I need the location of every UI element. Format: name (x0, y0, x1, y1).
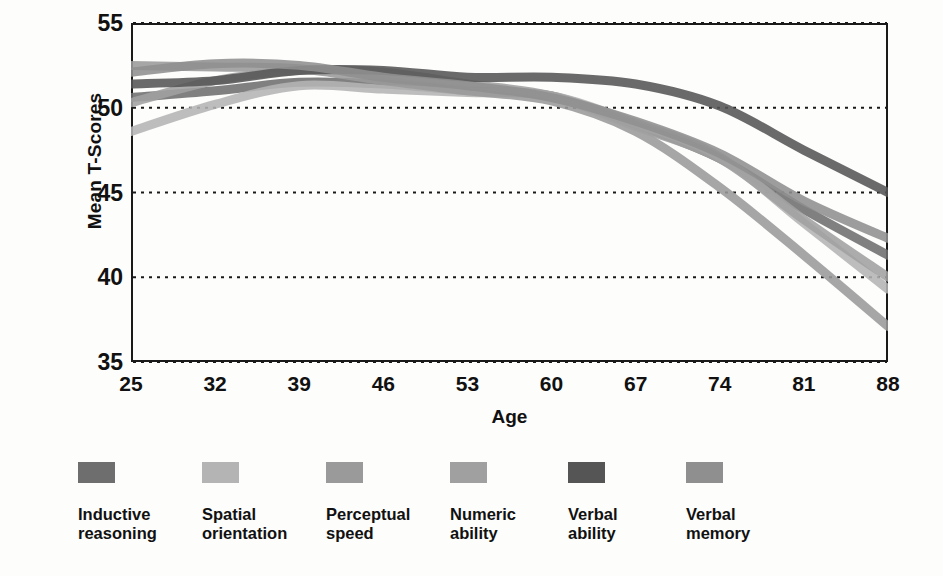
x-tick-74: 74 (690, 372, 750, 396)
legend-item-spatial-orientation[interactable]: Spatial orientation (202, 462, 332, 543)
y-tick-40: 40 (63, 264, 123, 291)
x-axis-title: Age (131, 406, 888, 428)
x-tick-60: 60 (522, 372, 582, 396)
x-tick-67: 67 (606, 372, 666, 396)
chart-legend: Inductive reasoningSpatial orientationPe… (78, 462, 928, 562)
x-tick-88: 88 (858, 372, 918, 396)
x-tick-25: 25 (101, 372, 161, 396)
x-axis-tick-labels: 25323946536067748188 (131, 372, 888, 406)
chart-page: Mean T-Scores 5550454035 253239465360677… (0, 0, 943, 576)
x-tick-53: 53 (437, 372, 497, 396)
plot-area (131, 23, 888, 362)
legend-label: Numeric ability (450, 505, 516, 542)
legend-item-numeric-ability[interactable]: Numeric ability (450, 462, 580, 543)
x-tick-81: 81 (774, 372, 834, 396)
legend-item-verbal-memory[interactable]: Verbal memory (686, 462, 816, 543)
x-tick-39: 39 (269, 372, 329, 396)
legend-swatch-icon (78, 462, 115, 483)
legend-swatch-icon (686, 462, 723, 483)
legend-swatch-icon (450, 462, 487, 483)
legend-label: Inductive reasoning (78, 505, 157, 542)
legend-label: Spatial orientation (202, 505, 287, 542)
legend-item-inductive-reasoning[interactable]: Inductive reasoning (78, 462, 208, 543)
y-tick-45: 45 (63, 179, 123, 206)
legend-label: Perceptual speed (326, 505, 410, 542)
legend-swatch-icon (202, 462, 239, 483)
x-tick-32: 32 (185, 372, 245, 396)
y-tick-55: 55 (63, 10, 123, 37)
legend-label: Verbal ability (568, 505, 618, 542)
y-tick-50: 50 (63, 94, 123, 121)
x-tick-46: 46 (353, 372, 413, 396)
legend-label: Verbal memory (686, 505, 750, 542)
legend-swatch-icon (326, 462, 363, 483)
legend-item-verbal-ability[interactable]: Verbal ability (568, 462, 698, 543)
legend-swatch-icon (568, 462, 605, 483)
legend-item-perceptual-speed[interactable]: Perceptual speed (326, 462, 456, 543)
